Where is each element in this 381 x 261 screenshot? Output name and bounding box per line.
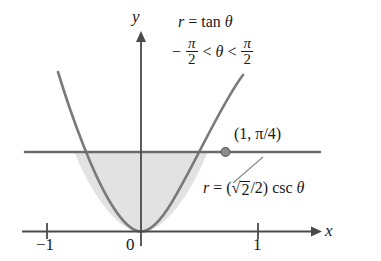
csc-equation-radicand: 2: [240, 181, 250, 198]
intersection-point-marker: [221, 148, 230, 157]
csc-curve-equation-label: r = (√2/2) csc θ: [203, 180, 304, 198]
tan-equation-r-symbol: r: [178, 13, 184, 30]
tan-equation-function-name: tan: [201, 13, 221, 30]
tan-equation-equals-sign: =: [188, 13, 197, 30]
x-axis-arrowhead: [311, 227, 322, 237]
intersection-point-label: (1, π/4): [234, 126, 281, 142]
y-axis-arrowhead: [136, 31, 146, 42]
domain-lower-denominator: 2: [186, 51, 198, 67]
tan-curve-equation-label: r = tan θ: [178, 14, 233, 30]
domain-upper-denominator: 2: [241, 51, 253, 67]
tan-equation-theta-symbol: θ: [225, 13, 233, 30]
csc-equation-theta-symbol: θ: [297, 179, 305, 196]
domain-less-than-left: <: [203, 44, 212, 60]
x-tick-label-zero: 0: [126, 236, 135, 253]
domain-minus-sign: −: [172, 44, 181, 60]
x-axis-label: x: [325, 222, 333, 239]
domain-lower-numerator: π: [186, 36, 198, 51]
csc-equation-r-symbol: r: [203, 179, 209, 196]
x-tick-label-neg1: −1: [36, 236, 54, 253]
domain-upper-numerator: π: [241, 36, 253, 51]
y-axis-label: y: [132, 8, 140, 25]
x-tick-label-one: 1: [253, 236, 262, 253]
domain-less-than-right: <: [227, 44, 236, 60]
csc-equation-equals-sign: =: [213, 179, 222, 196]
sqrt-radical-icon: √: [232, 180, 241, 196]
csc-equation-slash-two: /2): [250, 179, 268, 196]
domain-lower-bound-fraction: π 2: [186, 36, 198, 68]
csc-equation-function-name: csc: [272, 179, 292, 196]
csc-equation-square-root: √2: [232, 180, 251, 198]
polar-graph-figure: y x −1 0 1 r = tan θ − π 2 < θ < π 2 (1,…: [0, 0, 381, 261]
domain-theta-symbol: θ: [216, 44, 224, 60]
domain-upper-bound-fraction: π 2: [241, 36, 253, 68]
domain-inequality-label: − π 2 < θ < π 2: [172, 36, 254, 68]
